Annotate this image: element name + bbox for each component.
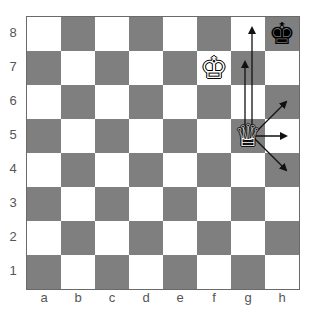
square-a6 bbox=[27, 85, 61, 119]
square-f3 bbox=[197, 187, 231, 221]
square-c1 bbox=[95, 255, 129, 289]
square-f5 bbox=[197, 119, 231, 153]
square-e1 bbox=[163, 255, 197, 289]
square-b6 bbox=[61, 85, 95, 119]
file-label-f: f bbox=[197, 290, 231, 305]
square-a4 bbox=[27, 153, 61, 187]
square-g6 bbox=[231, 85, 265, 119]
square-a7 bbox=[27, 51, 61, 85]
square-e2 bbox=[163, 221, 197, 255]
square-c3 bbox=[95, 187, 129, 221]
rank-label-2: 2 bbox=[6, 229, 20, 244]
white-queen-icon: ♕ bbox=[231, 119, 265, 153]
square-h4 bbox=[265, 153, 299, 187]
square-d6 bbox=[129, 85, 163, 119]
rank-label-6: 6 bbox=[6, 93, 20, 108]
square-b3 bbox=[61, 187, 95, 221]
square-c6 bbox=[95, 85, 129, 119]
square-a5 bbox=[27, 119, 61, 153]
square-h5 bbox=[265, 119, 299, 153]
file-label-d: d bbox=[129, 290, 163, 305]
square-f2 bbox=[197, 221, 231, 255]
square-c4 bbox=[95, 153, 129, 187]
file-label-b: b bbox=[61, 290, 95, 305]
square-e8 bbox=[163, 17, 197, 51]
rank-label-4: 4 bbox=[6, 161, 20, 176]
square-a3 bbox=[27, 187, 61, 221]
rank-label-1: 1 bbox=[6, 263, 20, 278]
rank-label-3: 3 bbox=[6, 195, 20, 210]
square-b2 bbox=[61, 221, 95, 255]
square-h3 bbox=[265, 187, 299, 221]
square-b8 bbox=[61, 17, 95, 51]
square-d3 bbox=[129, 187, 163, 221]
square-b1 bbox=[61, 255, 95, 289]
square-e6 bbox=[163, 85, 197, 119]
square-b5 bbox=[61, 119, 95, 153]
square-h2 bbox=[265, 221, 299, 255]
square-a2 bbox=[27, 221, 61, 255]
square-g7 bbox=[231, 51, 265, 85]
square-c8 bbox=[95, 17, 129, 51]
black-king-icon: ♚ bbox=[265, 17, 299, 51]
square-d4 bbox=[129, 153, 163, 187]
square-d2 bbox=[129, 221, 163, 255]
square-b4 bbox=[61, 153, 95, 187]
square-a8 bbox=[27, 17, 61, 51]
file-label-h: h bbox=[265, 290, 299, 305]
square-d5 bbox=[129, 119, 163, 153]
square-g3 bbox=[231, 187, 265, 221]
square-e7 bbox=[163, 51, 197, 85]
square-g1 bbox=[231, 255, 265, 289]
square-g2 bbox=[231, 221, 265, 255]
square-c2 bbox=[95, 221, 129, 255]
square-f1 bbox=[197, 255, 231, 289]
square-f4 bbox=[197, 153, 231, 187]
square-d1 bbox=[129, 255, 163, 289]
file-label-c: c bbox=[95, 290, 129, 305]
square-a1 bbox=[27, 255, 61, 289]
square-h6 bbox=[265, 85, 299, 119]
square-h1 bbox=[265, 255, 299, 289]
rank-label-7: 7 bbox=[6, 59, 20, 74]
square-f6 bbox=[197, 85, 231, 119]
square-b7 bbox=[61, 51, 95, 85]
square-c5 bbox=[95, 119, 129, 153]
square-g4 bbox=[231, 153, 265, 187]
square-d8 bbox=[129, 17, 163, 51]
file-label-e: e bbox=[163, 290, 197, 305]
file-label-g: g bbox=[231, 290, 265, 305]
rank-label-5: 5 bbox=[6, 127, 20, 142]
file-label-a: a bbox=[27, 290, 61, 305]
square-e3 bbox=[163, 187, 197, 221]
square-h7 bbox=[265, 51, 299, 85]
rank-label-8: 8 bbox=[6, 25, 20, 40]
square-e4 bbox=[163, 153, 197, 187]
square-e5 bbox=[163, 119, 197, 153]
chess-board bbox=[26, 16, 300, 290]
white-king-icon: ♔ bbox=[197, 51, 231, 85]
square-f8 bbox=[197, 17, 231, 51]
square-g8 bbox=[231, 17, 265, 51]
square-d7 bbox=[129, 51, 163, 85]
square-c7 bbox=[95, 51, 129, 85]
